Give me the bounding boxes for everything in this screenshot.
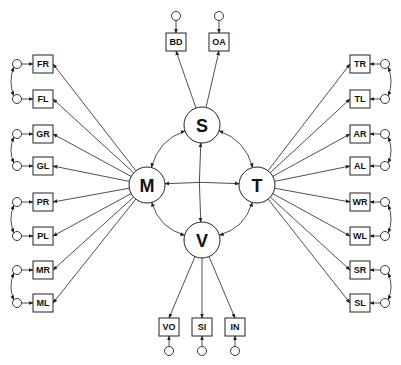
loading-m-pr (53, 188, 129, 202)
error-term-fl (13, 95, 22, 104)
indicator-sl: SL (350, 294, 370, 312)
error-term-si (198, 347, 207, 356)
factor-label: S (196, 116, 208, 136)
error-correlation-gr-gl (11, 137, 14, 163)
indicator-label: WR (353, 197, 368, 207)
error-term-gl (13, 162, 22, 171)
indicator-gl: GL (33, 157, 53, 175)
error-correlation-sr-sl (388, 273, 391, 300)
indicator-label: OA (212, 37, 226, 47)
loading-m-gr (53, 134, 131, 176)
correlation-t-v (219, 202, 252, 235)
indicator-label: ML (37, 298, 50, 308)
error-term-fr (13, 60, 22, 69)
loading-t-tr (268, 64, 350, 171)
error-term-al (381, 162, 390, 171)
indicator-label: GL (37, 161, 50, 171)
indicator-fl: FL (33, 90, 53, 108)
indicator-in: IN (225, 318, 245, 336)
loading-v-vo (169, 257, 195, 318)
indicator-label: TL (355, 94, 366, 104)
factor-label: V (196, 231, 208, 251)
error-term-ar (381, 130, 390, 139)
error-term-sr (381, 266, 390, 275)
error-term-wl (381, 232, 390, 241)
correlation-m-t (165, 182, 239, 183)
loading-v-in (209, 257, 235, 318)
error-term-gr (13, 130, 22, 139)
error-term-tl (381, 95, 390, 104)
error-correlation-fr-fl (11, 67, 14, 96)
indicator-gr: GR (33, 125, 53, 143)
factor-label: T (252, 176, 263, 196)
indicator-label: GR (36, 129, 50, 139)
loading-m-fl (53, 99, 134, 173)
indicator-label: MR (36, 265, 50, 275)
loading-s-oa (206, 51, 219, 107)
error-term-sl (381, 299, 390, 308)
indicator-label: FL (38, 94, 49, 104)
loading-s-bd (176, 51, 196, 108)
error-correlation-ar-al (388, 137, 391, 163)
loading-t-ar (273, 134, 350, 176)
error-term-pl (13, 232, 22, 241)
indicator-sr: SR (350, 261, 370, 279)
indicator-label: IN (231, 322, 240, 332)
error-term-in (231, 347, 240, 356)
indicator-wr: WR (350, 193, 370, 211)
indicator-label: PL (37, 231, 49, 241)
indicator-label: FR (37, 59, 49, 69)
indicator-label: SL (354, 298, 366, 308)
error-term-bd (172, 12, 181, 21)
correlation-s-m (151, 131, 185, 168)
indicator-pr: PR (33, 193, 53, 211)
indicator-label: BD (170, 37, 183, 47)
indicator-label: SI (198, 322, 207, 332)
indicator-ml: ML (33, 294, 53, 312)
indicator-label: VO (162, 322, 175, 332)
error-term-ml (13, 299, 22, 308)
factor-label: M (140, 176, 155, 196)
loading-m-mr (53, 197, 134, 270)
indicator-tl: TL (350, 90, 370, 108)
loading-m-gl (53, 166, 129, 181)
error-correlation-pr-pl (11, 205, 14, 233)
latent-factor-t: T (239, 167, 275, 203)
error-term-oa (215, 12, 224, 21)
indicator-label: AL (354, 161, 366, 171)
loading-t-wr (275, 188, 350, 202)
indicator-bd: BD (166, 33, 186, 51)
latent-factor-s: S (184, 107, 220, 143)
loading-m-ml (53, 199, 136, 303)
error-correlation-mr-ml (11, 273, 14, 300)
error-correlation-wr-wl (388, 205, 391, 233)
indicator-label: PR (37, 197, 50, 207)
indicator-oa: OA (209, 33, 229, 51)
indicator-label: WL (353, 231, 367, 241)
indicator-wl: WL (350, 227, 370, 245)
latent-factor-m: M (129, 167, 165, 203)
loading-t-sl (268, 199, 350, 303)
error-term-wr (381, 198, 390, 207)
error-correlation-tr-tl (388, 67, 391, 96)
indicator-mr: MR (33, 261, 53, 279)
error-term-pr (13, 198, 22, 207)
correlation-m-v (152, 202, 185, 235)
loading-t-al (275, 166, 350, 181)
nodes-layer: FRFLGRGLPRPLMRMLTRTLARALWRWLSRSLBDOAVOSI… (13, 12, 390, 356)
indicator-al: AL (350, 157, 370, 175)
correlation-s-t (219, 131, 253, 168)
sem-path-diagram: FRFLGRGLPRPLMRMLTRTLARALWRWLSRSLBDOAVOSI… (0, 0, 401, 365)
error-term-mr (13, 266, 22, 275)
indicator-label: TR (354, 59, 366, 69)
latent-factor-v: V (184, 222, 220, 258)
indicator-ar: AR (350, 125, 370, 143)
error-term-vo (165, 347, 174, 356)
indicator-label: AR (354, 129, 367, 139)
loading-m-fr (53, 64, 136, 171)
indicator-tr: TR (350, 55, 370, 73)
indicator-pl: PL (33, 227, 53, 245)
loading-t-tl (270, 99, 350, 173)
indicator-vo: VO (159, 318, 179, 336)
loading-t-sr (270, 197, 350, 270)
